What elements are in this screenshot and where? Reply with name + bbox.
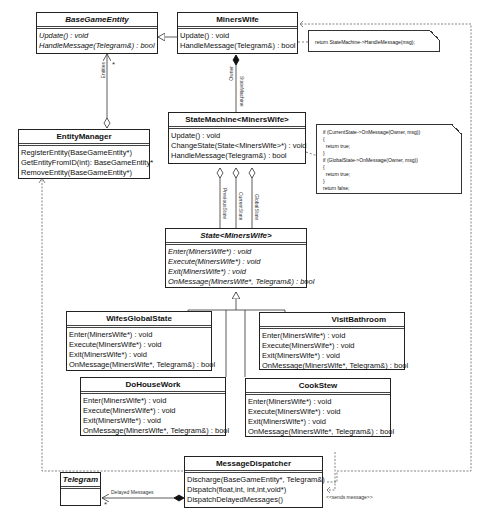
class-cook-stew[interactable]: CookStew Enter(MinersWife*) : void Execu… bbox=[245, 378, 391, 437]
method: Enter(MinersWife*) : void bbox=[168, 247, 304, 257]
method: GetEntityFromID(int): BaseGameEntity* bbox=[21, 158, 147, 168]
method: RegisterEntity(BaseGameEntity*) bbox=[21, 148, 147, 158]
method: OnMessage(MinersWife*, Telegram&) : bool bbox=[69, 360, 209, 370]
method: Enter(MinersWife*) : void bbox=[248, 397, 388, 407]
note-miners-wife: return StateMachine->HandleMessage(msg); bbox=[308, 30, 440, 52]
method: Exit(MinersWife*) : void bbox=[248, 417, 388, 427]
class-do-house-work[interactable]: DoHouseWork Enter(MinersWife*) : void Ex… bbox=[80, 377, 226, 436]
method: Dispatch(float,int, int,int,void*) bbox=[187, 485, 320, 495]
method: ChangeState(State<MinersWife>*) : void bbox=[171, 141, 303, 151]
label-delayed-messages: Delayed Messages bbox=[111, 489, 154, 495]
method: OnMessage(MinersWife*, Telegram&) : bool bbox=[168, 277, 304, 287]
label-entities-multiplicity: * bbox=[112, 60, 115, 69]
class-telegram[interactable]: Telegram bbox=[60, 472, 101, 506]
class-visit-bathroom[interactable]: VisitBathroom Enter(MinersWife*) : void … bbox=[259, 312, 405, 370]
method: OnMessage(MinersWife*, Telegram&) : bool bbox=[83, 426, 223, 436]
class-message-dispatcher[interactable]: MessageDispatcher Discharge(BaseGameEnti… bbox=[184, 456, 323, 508]
method: Exit(MinersWife*) : void bbox=[168, 267, 304, 277]
method: HandleMessage(Telegram&) : bool bbox=[39, 41, 155, 51]
label-entities: Entities bbox=[100, 62, 106, 78]
label-owner: Owner bbox=[228, 66, 234, 81]
method: Exit(MinersWife*) : void bbox=[262, 351, 402, 361]
class-entity-manager[interactable]: EntityManager RegisterEntity(BaseGameEnt… bbox=[18, 129, 150, 179]
method: Execute(MinersWife*) : void bbox=[69, 340, 209, 350]
method: Update() : void bbox=[180, 31, 295, 41]
class-title: EntityManager bbox=[19, 130, 149, 146]
method: Execute(MinersWife*) : void bbox=[83, 406, 223, 416]
class-title: State<MinersWife> bbox=[166, 229, 306, 245]
method: RemoveEntity(BaseGameEntity*) bbox=[21, 168, 147, 178]
label-delayed-multiplicity: * bbox=[104, 500, 107, 509]
method: Update() : void bbox=[171, 131, 303, 141]
method: Execute(MinersWife*) : void bbox=[168, 257, 304, 267]
class-title: MessageDispatcher bbox=[185, 457, 322, 473]
label-current-state: CurrentState bbox=[238, 192, 244, 220]
method: HandleMessage(Telegram&) : bool bbox=[180, 41, 295, 51]
label-previous-state: PreviousState bbox=[222, 188, 228, 219]
method: Enter(MinersWife*) : void bbox=[83, 396, 223, 406]
method: Enter(MinersWife*) : void bbox=[69, 330, 209, 340]
label-global-state: GlobalState bbox=[254, 194, 260, 220]
class-title: WifesGlobalState bbox=[67, 312, 211, 328]
method: Exit(MinersWife*) : void bbox=[83, 416, 223, 426]
class-title: Telegram bbox=[61, 473, 100, 489]
method: Exit(MinersWife*) : void bbox=[69, 350, 209, 360]
class-title: BaseGameEntity bbox=[37, 13, 157, 29]
method: DispatchDelayedMessages() bbox=[187, 495, 320, 505]
method: HandleMessage(Telegram&) : bool bbox=[171, 151, 303, 161]
class-title: DoHouseWork bbox=[81, 378, 225, 394]
class-title: VisitBathroom bbox=[260, 313, 404, 329]
note-state-machine: if (CurrentState->OnMessage(Owner, msg))… bbox=[316, 124, 462, 194]
method: Update() : void bbox=[39, 31, 155, 41]
method: Execute(MinersWife*) : void bbox=[262, 341, 402, 351]
class-state[interactable]: State<MinersWife> Enter(MinersWife*) : v… bbox=[165, 228, 307, 288]
method: Execute(MinersWife*) : void bbox=[248, 407, 388, 417]
class-title: CookStew bbox=[246, 379, 390, 395]
method: Discharge(BaseGameEntity*, Telegram&) bbox=[187, 475, 320, 485]
label-sends-message: <<sends message>> bbox=[326, 494, 373, 500]
method: Enter(MinersWife*) : void bbox=[262, 331, 402, 341]
class-title: MinersWife bbox=[178, 13, 297, 29]
class-title: StateMachine<MinersWife> bbox=[169, 113, 305, 129]
class-miners-wife[interactable]: MinersWife Update() : void HandleMessage… bbox=[177, 12, 298, 54]
class-base-game-entity[interactable]: BaseGameEntity Update() : void HandleMes… bbox=[36, 12, 158, 54]
method: OnMessage(MinersWife*, Telegram&) : bool bbox=[248, 427, 388, 437]
class-wifes-global-state[interactable]: WifesGlobalState Enter(MinersWife*) : vo… bbox=[66, 311, 212, 371]
label-state-machine-role: StateMachine bbox=[239, 76, 245, 107]
method: OnMessage(MinersWife*, Telegram&) : bool bbox=[262, 361, 402, 371]
class-state-machine[interactable]: StateMachine<MinersWife> Update() : void… bbox=[168, 112, 306, 164]
